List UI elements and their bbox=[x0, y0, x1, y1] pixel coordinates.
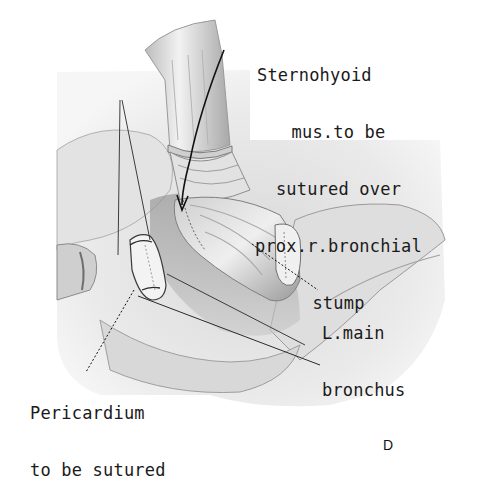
label-sternohyoid-line-4: prox.r.bronchial bbox=[255, 237, 422, 256]
label-left-main-bronchus: L.main bronchus bbox=[322, 286, 405, 419]
label-sternohyoid-line-3: sutured over bbox=[255, 180, 422, 199]
label-pericardium: Pericardium to be sutured over distal r.… bbox=[30, 366, 176, 480]
label-pericardium-line-2: to be sutured bbox=[30, 461, 176, 480]
label-sternohyoid-line-2: mus.to be bbox=[255, 123, 422, 142]
panel-letter: D bbox=[383, 437, 393, 453]
label-lmain-line-2: bronchus bbox=[322, 381, 405, 400]
label-lmain-line-1: L.main bbox=[322, 324, 405, 343]
label-pericardium-line-1: Pericardium bbox=[30, 404, 176, 423]
label-sternohyoid-line-1: Sternohyoid bbox=[255, 66, 422, 85]
